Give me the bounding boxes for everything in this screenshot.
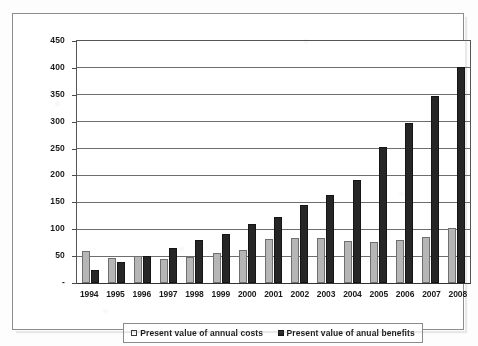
chart-legend: Present value of annual costs Present va… [123,323,423,343]
bar-chart-figure: 45040035030025020015010050- 199419951996… [0,0,478,346]
bar-group [260,41,286,283]
legend-label-costs: Present value of annual costs [140,329,263,338]
bar-benefits [326,195,334,283]
bar-benefits [431,96,439,283]
bar-costs [291,238,299,283]
x-axis-label: 2006 [392,288,418,302]
y-axis-tick [72,283,77,284]
bar-group [77,41,103,283]
y-axis-label: 100 [21,224,65,232]
bar-benefits [169,248,177,283]
y-axis-label: - [21,278,65,286]
x-axis-label: 1994 [76,288,102,302]
bar-group [418,41,444,283]
y-axis-label: 150 [21,197,65,205]
bar-benefits [405,123,413,283]
bar-group [208,41,234,283]
bar-costs [422,237,430,283]
bar-benefits [300,205,308,283]
x-axis-label: 1998 [181,288,207,302]
x-axis-label: 1999 [208,288,234,302]
y-axis-label: 200 [21,170,65,178]
y-axis-label: 300 [21,117,65,125]
y-axis-label: 450 [21,36,65,44]
bar-benefits [248,224,256,283]
x-axis-label: 1996 [129,288,155,302]
x-axis-label: 2001 [260,288,286,302]
bar-group [156,41,182,283]
x-axis-label: 2003 [313,288,339,302]
bar-groups [77,41,470,283]
bar-costs [239,250,247,283]
bar-group [339,41,365,283]
legend-item-benefits: Present value of anual benefits [278,329,415,338]
y-axis-label: 400 [21,63,65,71]
bar-benefits [117,262,125,284]
x-axis-label: 1995 [102,288,128,302]
x-axis-label: 2005 [366,288,392,302]
bar-group [182,41,208,283]
bar-costs [213,253,221,283]
bar-benefits [457,67,465,283]
x-axis: 1994199519961997199819992000200120022003… [76,288,471,302]
bar-group [313,41,339,283]
legend-item-costs: Present value of annual costs [131,329,263,338]
legend-label-benefits: Present value of anual benefits [287,329,415,338]
bar-costs [265,239,273,283]
bar-group [391,41,417,283]
chart-frame: 45040035030025020015010050- 199419951996… [12,13,464,330]
y-axis-label: 250 [21,144,65,152]
bar-group [365,41,391,283]
bar-benefits [222,234,230,283]
bar-benefits [195,240,203,283]
x-axis-label: 2000 [234,288,260,302]
hollow-square-icon [131,330,137,336]
bar-costs [82,251,90,283]
bar-costs [396,240,404,283]
bar-group [103,41,129,283]
x-axis-label: 1997 [155,288,181,302]
bar-costs [108,258,116,283]
bar-benefits [379,147,387,283]
plot-area [76,40,471,284]
bar-costs [344,241,352,283]
bar-benefits [353,180,361,283]
bar-group [444,41,470,283]
bar-group [129,41,155,283]
y-axis-label: 50 [21,251,65,259]
x-axis-label: 2007 [418,288,444,302]
bar-group [234,41,260,283]
filled-square-icon [278,330,284,336]
bar-costs [160,259,168,283]
bar-benefits [274,217,282,283]
bar-costs [186,257,194,283]
bar-costs [317,238,325,283]
bar-group [287,41,313,283]
bar-costs [370,242,378,283]
y-axis-label: 350 [21,90,65,98]
bar-benefits [143,256,151,283]
bar-costs [134,256,142,283]
x-axis-label: 2008 [445,288,471,302]
x-axis-label: 2002 [287,288,313,302]
bar-costs [448,228,456,283]
bar-benefits [91,270,99,283]
x-axis-label: 2004 [339,288,365,302]
